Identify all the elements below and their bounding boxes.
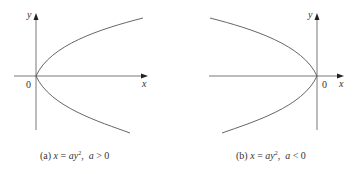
caption-b: (b) x = ay2, a < 0: [236, 150, 306, 161]
y-axis-arrow-b: [315, 13, 320, 20]
origin-label-b: 0: [322, 80, 327, 90]
panel-a: [14, 13, 148, 133]
caption-tag-a: (a): [40, 150, 51, 161]
parabola-curve-b: [210, 18, 317, 133]
y-axis-label-b: y: [308, 10, 312, 20]
origin-label-a: 0: [26, 80, 31, 90]
caption-a: (a) x = ay2, a > 0: [40, 150, 109, 161]
caption-tag-b: (b): [236, 150, 248, 161]
panel-b: [209, 13, 344, 133]
caption-eq-lhs-b: x: [250, 150, 254, 161]
x-axis-label-a: x: [142, 79, 146, 89]
y-axis-arrow-a: [34, 13, 39, 20]
caption-eq-lhs-a: x: [54, 150, 58, 161]
y-axis-label-a: y: [27, 10, 31, 20]
caption-cond-op-b: < 0: [290, 150, 306, 161]
parabola-diagrams: [0, 0, 359, 174]
caption-cond-op-a: > 0: [94, 150, 110, 161]
parabola-curve-a: [36, 18, 143, 133]
x-axis-label-b: x: [339, 79, 343, 89]
